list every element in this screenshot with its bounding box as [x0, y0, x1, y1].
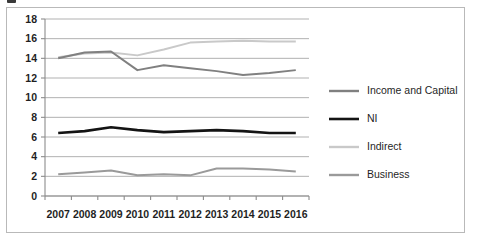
y-axis-tick-label: 0 — [31, 190, 37, 202]
series-line-business — [58, 168, 296, 175]
legend-item-income-and-capital: Income and Capital — [329, 84, 457, 96]
x-axis-tick-label: 2012 — [179, 208, 203, 220]
x-axis-tick-label: 2016 — [284, 208, 308, 220]
x-axis-tick-label: 2008 — [73, 208, 97, 220]
series-line-income-and-capital — [58, 51, 296, 75]
clipped-caption-glyph — [7, 0, 16, 3]
y-axis-tick-label: 18 — [25, 13, 37, 25]
legend-label: Indirect — [367, 140, 402, 152]
x-axis-tick-label: 2013 — [205, 208, 229, 220]
series-line-ni — [58, 127, 296, 133]
x-axis-tick-label: 2011 — [152, 208, 175, 220]
legend-label: Income and Capital — [367, 84, 457, 96]
x-axis-tick-label: 2010 — [126, 208, 150, 220]
y-axis-tick-label: 10 — [25, 91, 37, 103]
legend-label: Business — [367, 168, 410, 180]
x-tick-labels-group: 2007200820092010201120122013201420152016 — [47, 208, 308, 220]
legend-group: Income and CapitalNIIndirectBusiness — [329, 84, 457, 180]
y-axis-tick-label: 4 — [31, 150, 37, 162]
legend-item-business: Business — [329, 168, 410, 180]
series-group — [58, 41, 296, 176]
x-axis-tick-label: 2014 — [231, 208, 255, 220]
chart-frame: 024681012141618 200720082009201020112012… — [6, 7, 465, 233]
legend-item-indirect: Indirect — [329, 140, 402, 152]
y-tick-labels-group: 024681012141618 — [25, 13, 37, 202]
y-axis-tick-label: 2 — [31, 170, 37, 182]
y-axis-tick-label: 8 — [31, 111, 37, 123]
x-axis-tick-label: 2015 — [258, 208, 282, 220]
y-axis-tick-label: 12 — [25, 72, 37, 84]
y-axis-tick-label: 16 — [25, 32, 37, 44]
legend-label: NI — [367, 112, 378, 124]
x-axis-tick-label: 2007 — [47, 208, 71, 220]
y-axis-tick-label: 6 — [31, 131, 37, 143]
y-axis-tick-label: 14 — [25, 52, 37, 64]
x-axis-tick-label: 2009 — [99, 208, 123, 220]
line-chart: 024681012141618 200720082009201020112012… — [7, 8, 464, 232]
series-line-indirect — [58, 41, 296, 58]
legend-item-ni: NI — [329, 112, 378, 124]
